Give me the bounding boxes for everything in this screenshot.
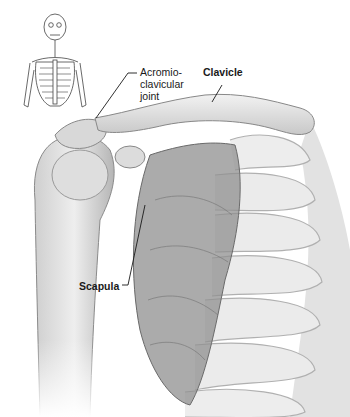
shoulder-illustration xyxy=(0,0,350,417)
anatomy-figure: Acromio- clavicular joint Clavicle Scapu… xyxy=(0,0,350,417)
label-clavicle: Clavicle xyxy=(203,66,243,78)
humeral-head xyxy=(52,150,108,200)
label-line-1: Acromio- xyxy=(140,66,184,78)
label-line-2: clavicular xyxy=(140,78,184,90)
label-scapula: Scapula xyxy=(79,280,119,292)
label-line-3: joint xyxy=(140,90,184,102)
skeleton-icon xyxy=(24,14,86,107)
clavicle xyxy=(95,94,314,134)
label-acromioclavicular-joint: Acromio- clavicular joint xyxy=(140,66,184,102)
coracoid xyxy=(115,146,145,168)
